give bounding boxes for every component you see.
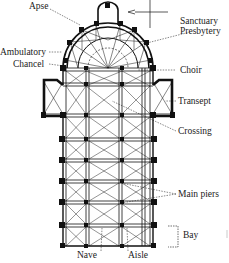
ambulatory-arc bbox=[78, 38, 138, 68]
label-nave: Nave bbox=[77, 251, 97, 261]
label-bay: Bay bbox=[183, 231, 198, 241]
apse-ribs bbox=[65, 25, 151, 68]
transept-vaults bbox=[44, 82, 172, 114]
bay-bracket bbox=[168, 226, 178, 247]
orientation-cross-icon bbox=[128, 0, 168, 28]
vault-ribs bbox=[66, 71, 150, 246]
arcade-lines bbox=[66, 68, 150, 246]
label-ambulatory: Ambulatory bbox=[0, 48, 46, 58]
label-main-piers: Main piers bbox=[178, 190, 219, 200]
label-presbytery: Presbytery bbox=[180, 27, 221, 37]
label-choir: Choir bbox=[180, 66, 202, 76]
leader-lines bbox=[49, 9, 190, 251]
label-crossing: Crossing bbox=[178, 127, 212, 137]
main-piers bbox=[41, 65, 175, 248]
label-chancel: Chancel bbox=[13, 60, 44, 70]
label-apse: Apse bbox=[29, 2, 49, 12]
label-transept: Transept bbox=[178, 97, 211, 107]
outer-walls bbox=[63, 68, 153, 246]
transept-walls bbox=[44, 80, 172, 116]
label-aisle: Aisle bbox=[128, 251, 148, 261]
